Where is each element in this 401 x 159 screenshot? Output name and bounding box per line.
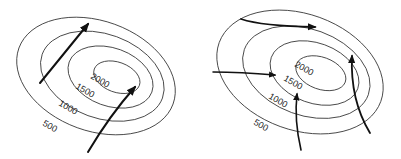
- right-arrow-top: [241, 19, 315, 27]
- right-arrow-bottom-center: [296, 94, 301, 150]
- right-label-500: 500: [252, 117, 270, 133]
- left-label-500: 500: [41, 118, 59, 134]
- left-label-1000: 1000: [57, 98, 79, 117]
- right-contour-map: 2000 1500 1000 500: [199, 0, 400, 156]
- left-label-1500: 1500: [74, 81, 96, 100]
- left-contour-map: 2000 1500 1000 500: [0, 0, 192, 156]
- right-arrow-left: [213, 72, 275, 75]
- left-arrow-upper: [40, 24, 88, 83]
- left-arrow-lower: [88, 87, 135, 152]
- right-label-1500: 1500: [282, 73, 304, 92]
- contour-diagrams-svg: 2000 1500 1000 500 2000 1500 1000 500: [0, 0, 401, 159]
- left-label-2000: 2000: [89, 71, 111, 90]
- right-label-2000: 2000: [293, 59, 315, 78]
- contour-diagram-figure: 2000 1500 1000 500 2000 1500 1000 500: [0, 0, 401, 159]
